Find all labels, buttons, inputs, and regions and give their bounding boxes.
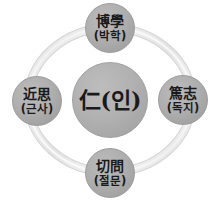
- node-bottom-hangul: (절문): [94, 175, 127, 188]
- node-center[interactable]: 仁(인): [72, 62, 148, 138]
- node-top[interactable]: 博學 (박학): [85, 3, 135, 53]
- diagram-canvas: 博學 (박학) 篤志 (독지) 切問 (절문) 近思 (근사) 仁(인): [0, 0, 220, 205]
- node-center-label: 仁(인): [79, 88, 142, 112]
- node-bottom-hanja: 切問: [96, 159, 124, 174]
- node-right[interactable]: 篤志 (독지): [158, 75, 208, 125]
- node-top-hangul: (박학): [94, 30, 127, 43]
- node-right-hanja: 篤志: [169, 86, 197, 101]
- node-bottom[interactable]: 切問 (절문): [85, 148, 135, 198]
- node-left-hangul: (근사): [21, 103, 54, 116]
- node-right-hangul: (독지): [167, 102, 200, 115]
- node-top-hanja: 博學: [96, 14, 124, 29]
- node-left-hanja: 近思: [23, 87, 51, 102]
- node-left[interactable]: 近思 (근사): [12, 76, 62, 126]
